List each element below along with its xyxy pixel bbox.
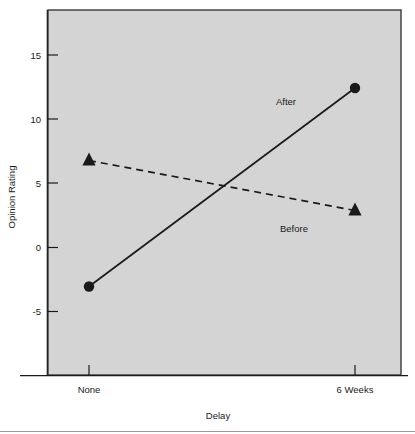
y-tick-label-5: 5 xyxy=(36,178,41,189)
y-tick-label-minus5: -5 xyxy=(33,306,41,317)
y-axis-title: Opinion Rating xyxy=(6,166,17,229)
after-marker-none-circle xyxy=(84,281,94,291)
opinion-rating-line-chart: 15 10 5 0 -5 None 6 Weeks Delay Opinion … xyxy=(0,0,415,434)
y-tick-label-15: 15 xyxy=(30,50,41,61)
x-tick-label-6weeks: 6 Weeks xyxy=(337,384,374,395)
y-tick-label-0: 0 xyxy=(36,242,41,253)
after-marker-6weeks-circle xyxy=(350,83,360,93)
x-axis-title: Delay xyxy=(206,410,231,421)
x-tick-label-none: None xyxy=(78,384,101,395)
plot-area-background xyxy=(48,10,401,375)
annotation-before: Before xyxy=(280,223,308,234)
y-tick-label-10: 10 xyxy=(30,114,41,125)
annotation-after: After xyxy=(276,96,296,107)
